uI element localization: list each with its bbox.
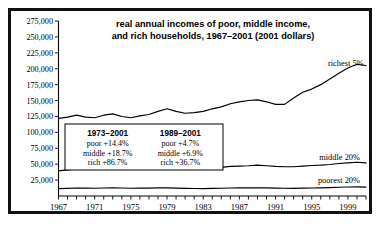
- x-tick-label: 1999: [339, 202, 356, 212]
- x-tick-label: 1979: [158, 202, 175, 212]
- y-tick-label: 50,000: [30, 160, 53, 169]
- x-tick-label: 1971: [86, 202, 103, 212]
- y-tick-label: 275,000: [26, 17, 53, 26]
- x-tick-label: 1991: [267, 202, 284, 212]
- annotation-line: rich +86.7%: [88, 158, 128, 167]
- chart-subtitle: and rich households, 1967–2001 (2001 dol…: [112, 31, 315, 41]
- y-tick-label: 200,000: [26, 65, 53, 74]
- x-tick-label: 1975: [122, 202, 139, 212]
- series-label-richest-5-: richest 5%: [328, 59, 364, 68]
- y-tick-label: 175,000: [26, 81, 53, 90]
- x-tick-label: 1995: [303, 202, 320, 212]
- x-tick-label: 1987: [231, 202, 249, 212]
- y-axis-ticks: 25,00050,00075,000100,000125,000150,0001…: [26, 17, 58, 185]
- annotation-line: poor +4.7%: [161, 139, 199, 148]
- annotation-line: poor +14.4%: [87, 139, 129, 148]
- annotation-line: middle +18.7%: [83, 149, 133, 158]
- y-tick-label: 125,000: [26, 112, 53, 121]
- y-tick-label: 225,000: [26, 49, 53, 58]
- y-tick-label: 150,000: [26, 97, 53, 106]
- series-labels: richest 5%middle 20%poorest 20%: [318, 59, 364, 185]
- series-line-poorest-20-: [59, 187, 367, 189]
- y-tick-label: 25,000: [30, 176, 53, 185]
- chart-title: real annual incomes of poor, middle inco…: [116, 19, 310, 29]
- chart-stage: real annual incomes of poor, middle inco…: [0, 0, 386, 229]
- series-label-middle-20-: middle 20%: [319, 153, 360, 162]
- annotation-heading: 1989–2001: [160, 129, 201, 138]
- y-tick-label: 100,000: [26, 128, 53, 137]
- annotation-boxes: 1973–2001poor +14.4%middle +18.7%rich +8…: [65, 124, 223, 170]
- annotation-line: rich +36.7%: [161, 158, 201, 167]
- annotation-line: middle +6.9%: [158, 149, 204, 158]
- x-tick-label: 1967: [50, 202, 68, 212]
- x-axis-ticks: 196719711975197919831987199119951999: [50, 196, 366, 212]
- series-line-richest-5-: [59, 64, 367, 118]
- series-label-poorest-20-: poorest 20%: [318, 176, 360, 185]
- annotation-heading: 1973–2001: [87, 129, 128, 138]
- y-tick-label: 250,000: [26, 33, 53, 42]
- income-line-chart: real annual incomes of poor, middle inco…: [0, 0, 386, 229]
- y-tick-label: 75,000: [30, 144, 53, 153]
- x-tick-label: 1983: [195, 202, 212, 212]
